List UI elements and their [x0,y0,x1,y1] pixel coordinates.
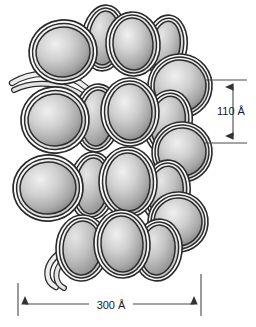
chromatin-fiber-figure: 110 Å 300 Å [0,0,256,327]
vertical-dimension-label: 110 Å [217,105,246,117]
horizontal-dimension-label: 300 Å [97,299,126,311]
chromatin-diagram-svg: 110 Å 300 Å [0,0,256,327]
